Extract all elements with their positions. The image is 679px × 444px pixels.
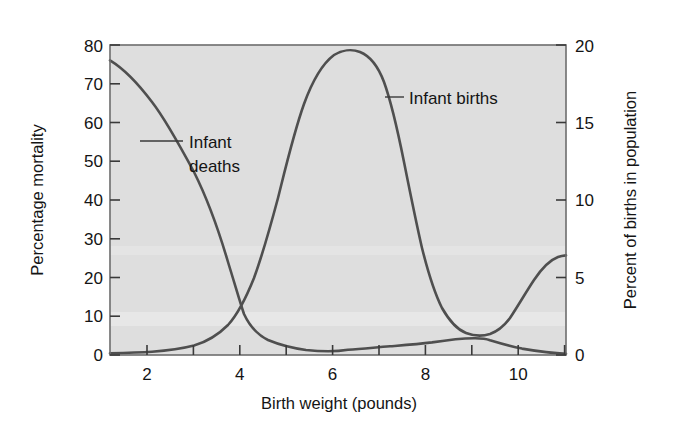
x-tick-label-10: 10 bbox=[509, 365, 528, 384]
annotation-infant-births-label: Infant births bbox=[409, 89, 498, 108]
scan-band-upper bbox=[110, 246, 566, 255]
chart-svg: 0 10 20 30 40 50 60 70 80 0 5 10 15 20 2… bbox=[0, 0, 679, 444]
scan-band-lower bbox=[110, 312, 566, 326]
right-tick-label-15: 15 bbox=[575, 114, 594, 133]
right-tick-label-5: 5 bbox=[575, 269, 584, 288]
x-tick-label-8: 8 bbox=[421, 365, 430, 384]
right-axis-tick-labels: 0 5 10 15 20 bbox=[575, 37, 594, 365]
left-tick-label-30: 30 bbox=[84, 230, 103, 249]
left-tick-label-70: 70 bbox=[84, 75, 103, 94]
left-tick-label-0: 0 bbox=[94, 346, 103, 365]
right-tick-label-0: 0 bbox=[575, 346, 584, 365]
x-tick-label-6: 6 bbox=[328, 365, 337, 384]
annotation-infant-deaths-line2: deaths bbox=[189, 157, 240, 176]
left-axis-tick-labels: 0 10 20 30 40 50 60 70 80 bbox=[84, 37, 103, 365]
right-tick-label-10: 10 bbox=[575, 191, 594, 210]
chart-figure: 0 10 20 30 40 50 60 70 80 0 5 10 15 20 2… bbox=[0, 0, 679, 444]
left-tick-label-80: 80 bbox=[84, 37, 103, 56]
y-axis-left-title: Percentage mortality bbox=[28, 124, 46, 276]
left-tick-label-50: 50 bbox=[84, 152, 103, 171]
left-tick-label-20: 20 bbox=[84, 269, 103, 288]
x-axis-title: Birth weight (pounds) bbox=[261, 394, 417, 412]
right-tick-label-20: 20 bbox=[575, 37, 594, 56]
x-tick-label-4: 4 bbox=[235, 365, 244, 384]
x-tick-label-2: 2 bbox=[142, 365, 151, 384]
left-tick-label-10: 10 bbox=[84, 307, 103, 326]
left-tick-label-40: 40 bbox=[84, 191, 103, 210]
y-axis-right-title: Percent of births in population bbox=[621, 91, 639, 309]
x-axis-tick-labels: 2 4 6 8 10 bbox=[142, 365, 527, 384]
left-tick-label-60: 60 bbox=[84, 114, 103, 133]
annotation-infant-deaths-line1: Infant bbox=[189, 133, 232, 152]
